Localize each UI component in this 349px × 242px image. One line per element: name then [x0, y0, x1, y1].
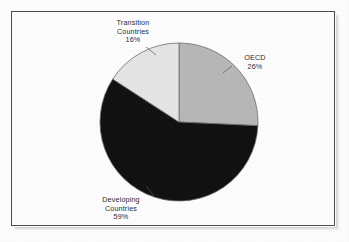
pie-chart: Transition Countries 16% OECD 26% Develo…	[0, 0, 349, 242]
chart-page: Transition Countries 16% OECD 26% Develo…	[0, 0, 349, 242]
pie-chart-svg	[0, 0, 349, 242]
pie-label-oecd: OECD 26%	[226, 54, 284, 71]
pie-label-developing-percent: 59%	[78, 213, 164, 222]
pie-label-transition-percent: 16%	[97, 36, 169, 45]
pie-label-oecd-percent: 26%	[226, 63, 284, 72]
pie-label-developing-countries: Developing Countries 59%	[78, 196, 164, 222]
pie-label-transition-countries: Transition Countries 16%	[97, 19, 169, 45]
